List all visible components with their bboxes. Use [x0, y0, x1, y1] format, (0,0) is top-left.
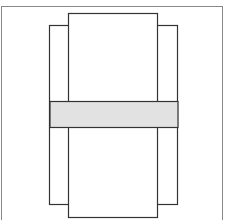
gray-band	[50, 102, 178, 128]
box-net-diagram	[0, 0, 225, 220]
